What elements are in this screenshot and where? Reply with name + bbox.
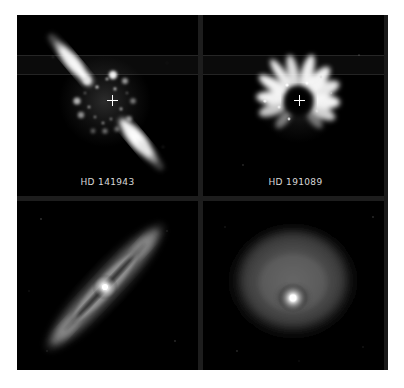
panel-label-top-left: HD 141943 <box>17 177 198 187</box>
panel-top-right[interactable]: HD 191089 <box>203 15 388 196</box>
inclined-disk-model-image <box>17 201 198 370</box>
panel-divider-vertical <box>198 15 203 370</box>
figure-panel-grid: HD 141943 <box>17 15 388 370</box>
faceon-disk-model-image <box>203 201 388 370</box>
panel-bottom-right[interactable] <box>203 201 388 370</box>
hd191089-observation-image <box>203 15 388 196</box>
hd141943-observation-image <box>17 15 198 196</box>
figure-right-edge <box>384 15 388 370</box>
panel-bottom-left[interactable] <box>17 201 198 370</box>
panel-divider-horizontal <box>17 196 388 201</box>
panel-label-top-right: HD 191089 <box>203 177 388 187</box>
star-center-marker <box>294 95 305 106</box>
star-center-marker <box>107 95 118 106</box>
panel-top-left[interactable]: HD 141943 <box>17 15 198 196</box>
